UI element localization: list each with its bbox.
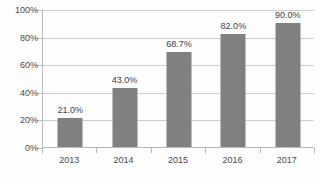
- y-tick-label: 20%: [20, 116, 38, 125]
- y-tick-label: 60%: [20, 61, 38, 70]
- x-tick-mark: [151, 148, 152, 153]
- x-tick-label: 2017: [277, 156, 297, 165]
- bar-value-label: 21.0%: [57, 106, 83, 115]
- bar-value-label: 43.0%: [112, 76, 138, 85]
- bar[interactable]: [166, 52, 191, 147]
- bar-group: 82.0%: [206, 10, 260, 147]
- x-tick-label: 2015: [168, 156, 188, 165]
- x-tick-label: 2016: [222, 156, 242, 165]
- bar-value-label: 68.7%: [166, 40, 192, 49]
- x-tick-mark: [96, 148, 97, 153]
- bar[interactable]: [221, 34, 246, 147]
- x-tick-mark: [260, 148, 261, 153]
- x-tick-mark: [314, 148, 315, 153]
- x-tick-mark: [205, 148, 206, 153]
- x-tick-mark: [42, 148, 43, 153]
- bar-group: 68.7%: [152, 10, 206, 147]
- bar[interactable]: [275, 23, 300, 147]
- bar-group: 21.0%: [43, 10, 97, 147]
- bar-chart: 0%20%40%60%80%100% 21.0%43.0%68.7%82.0%9…: [0, 0, 322, 182]
- x-tick-label: 2014: [114, 156, 134, 165]
- y-tick-label: 80%: [20, 33, 38, 42]
- y-tick-label: 40%: [20, 88, 38, 97]
- plot-area: 21.0%43.0%68.7%82.0%90.0%: [42, 10, 314, 148]
- x-tick-label: 2013: [59, 156, 79, 165]
- bar[interactable]: [58, 118, 83, 147]
- y-tick-label: 100%: [15, 6, 38, 15]
- bar-value-label: 90.0%: [275, 11, 301, 20]
- bar-group: 43.0%: [97, 10, 151, 147]
- bar-value-label: 82.0%: [221, 22, 247, 31]
- bar[interactable]: [112, 88, 137, 147]
- bar-group: 90.0%: [261, 10, 315, 147]
- y-tick-label: 0%: [25, 144, 38, 153]
